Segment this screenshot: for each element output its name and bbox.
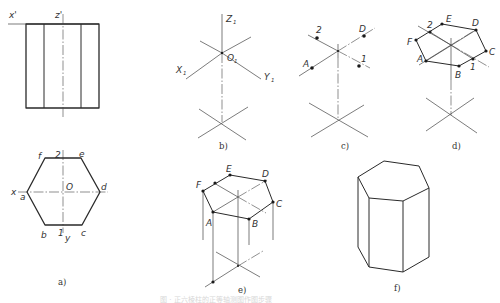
panel-c-points: A D 2 1 c) (299, 24, 375, 151)
panel-e-verticals: F E D C B A e) (196, 164, 283, 295)
label-1: 1 (361, 54, 367, 64)
hexagonal-prism-isometric-figure: x' z' x a f 2 e O d b 1 y c a) Z 1 O 1 X… (0, 0, 500, 303)
panel-f-prism: f) (358, 161, 429, 293)
label-E: E (446, 14, 452, 24)
label-f: f (38, 151, 43, 161)
label-B: B (252, 219, 258, 229)
label-d: d (101, 182, 107, 192)
label-C: C (276, 199, 283, 209)
label-y1-sub: 1 (271, 77, 275, 83)
label-1: 1 (58, 228, 64, 238)
label-2: 2 (316, 25, 322, 35)
caption-c: c) (341, 141, 349, 151)
label-x: x (10, 187, 17, 197)
label-B: B (455, 70, 461, 80)
label-a: a (20, 192, 26, 202)
label-z1-sub: 1 (233, 19, 237, 25)
label-A: A (205, 218, 212, 228)
label-D: D (359, 24, 366, 34)
figure-caption: 图 · 正六棱柱的正等轴测图作图步骤 (160, 295, 272, 303)
label-A: A (416, 54, 423, 64)
label-2: 2 (427, 20, 433, 30)
panel-b-axes: Z 1 O 1 X 1 Y 1 b) (175, 14, 275, 151)
label-2: 2 (55, 150, 61, 160)
label-origin: O (66, 182, 73, 192)
panel-a-front-view: x' z' (8, 10, 99, 117)
caption-a: a) (58, 277, 66, 287)
label-E: E (226, 164, 232, 174)
label-1: 1 (470, 62, 476, 72)
label-z1: Z (225, 14, 233, 24)
caption-b: b) (219, 141, 228, 151)
panel-a-top-view: x a f 2 e O d b 1 y c a) (10, 149, 108, 287)
label-o1-sub: 1 (234, 58, 238, 64)
label-y1: Y (264, 72, 271, 82)
caption-e: e) (238, 285, 246, 295)
label-x-prime: x' (8, 10, 17, 20)
label-y: y (64, 233, 71, 243)
caption-d: d) (452, 141, 461, 151)
label-c: c (81, 228, 86, 238)
label-D: D (472, 18, 479, 28)
label-C: C (489, 47, 496, 57)
label-b: b (41, 230, 47, 240)
label-e: e (79, 149, 85, 159)
panel-d-top-hexagon: F 2 E D C 1 B A d) (407, 14, 496, 151)
label-x1: X (175, 65, 183, 75)
label-z-prime: z' (54, 10, 62, 20)
caption-f: f) (394, 283, 400, 293)
label-A: A (302, 59, 309, 69)
label-F: F (196, 180, 202, 190)
label-x1-sub: 1 (183, 70, 187, 76)
label-F: F (407, 37, 413, 47)
label-D: D (262, 169, 269, 179)
